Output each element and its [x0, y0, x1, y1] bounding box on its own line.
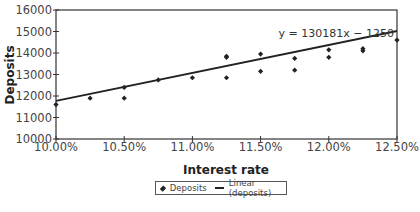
data-point — [394, 38, 399, 43]
y-tick-label: 16000 — [15, 3, 52, 17]
y-tick-label: 14000 — [15, 46, 52, 60]
y-axis: 10000110001200013000140001500016000 — [15, 3, 59, 146]
y-tick-label: 13000 — [15, 68, 52, 82]
line-marker-icon — [215, 187, 224, 189]
y-tick-label: 15000 — [15, 25, 52, 39]
data-point — [122, 96, 127, 101]
legend-item-linear: Linear (deposits) — [229, 178, 283, 198]
x-tick-label: 11.00% — [170, 140, 214, 154]
diamond-marker-icon — [160, 185, 166, 191]
data-point — [156, 77, 161, 82]
chart-legend: Deposits Linear (deposits) — [155, 181, 287, 195]
legend-item-deposits: Deposits — [170, 183, 207, 193]
trendline — [56, 31, 397, 101]
y-tick-label: 12000 — [15, 89, 52, 103]
data-point — [53, 102, 58, 107]
data-point — [326, 55, 331, 60]
data-point — [88, 96, 93, 101]
x-axis-title: Interest rate — [183, 163, 269, 177]
data-series — [53, 31, 399, 107]
data-point — [224, 75, 229, 80]
data-point — [258, 51, 263, 56]
x-tick-label: 10.50% — [102, 140, 146, 154]
x-tick-label: 12.00% — [307, 140, 351, 154]
y-tick-label: 11000 — [15, 111, 52, 125]
data-point — [292, 56, 297, 61]
data-point — [190, 75, 195, 80]
data-point — [258, 69, 263, 74]
data-point — [292, 68, 297, 73]
trendline-equation: y = 130181x − 1250 — [279, 27, 394, 40]
y-axis-title: Deposits — [3, 45, 17, 104]
data-point — [122, 85, 127, 90]
x-tick-label: 12.50% — [375, 140, 419, 154]
x-tick-label: 11.50% — [239, 140, 283, 154]
x-tick-label: 10.00% — [34, 140, 78, 154]
data-point — [326, 47, 331, 52]
